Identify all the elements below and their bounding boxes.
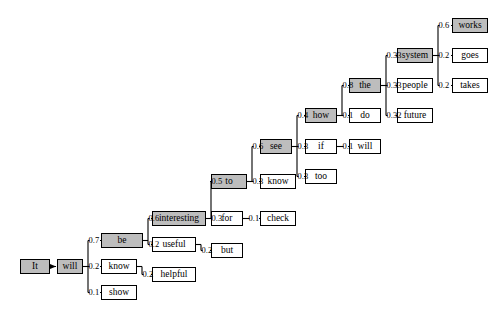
node-know1[interactable]: know — [101, 259, 137, 274]
lattice-diagram: Itwillbeknowshowinterestingusefulhelpful… — [0, 0, 499, 316]
node-label: people — [402, 79, 427, 92]
edge-weight-useful-but: 0.2 — [202, 246, 213, 255]
node-label: see — [270, 140, 282, 153]
node-helpful[interactable]: helpful — [152, 267, 196, 282]
edge-weight-will1-show: 0.1 — [89, 288, 100, 297]
edge-weight-see-if: 0.3 — [298, 142, 309, 151]
node-label: interesting — [159, 212, 199, 225]
node-interesting[interactable]: interesting — [152, 211, 206, 226]
node-how[interactable]: how — [305, 108, 337, 123]
node-label: will — [63, 260, 78, 273]
node-people[interactable]: people — [397, 78, 433, 93]
node-label: the — [359, 79, 371, 92]
node-label: know — [108, 260, 129, 273]
node-label: takes — [460, 79, 480, 92]
node-know2[interactable]: know — [260, 174, 296, 189]
node-label: do — [360, 109, 370, 122]
node-future[interactable]: future — [397, 108, 433, 123]
node-be[interactable]: be — [101, 233, 143, 248]
edge-weight-how-do: 0.1 — [343, 111, 354, 120]
node-label: check — [267, 212, 289, 225]
edge-weight-will1-be: 0.7 — [89, 236, 100, 245]
node-will2[interactable]: will — [349, 139, 381, 154]
edge-weight-see-how: 0.4 — [298, 111, 309, 120]
edge-weight-for-check: 0.1 — [249, 214, 260, 223]
edge-weight-will1-know1: 0.2 — [89, 262, 100, 271]
edge-weight-the-people: 0.33 — [387, 81, 402, 90]
node-label: too — [315, 170, 327, 183]
node-works[interactable]: works — [452, 18, 488, 33]
node-label: works — [458, 19, 481, 32]
node-label: to — [225, 175, 232, 188]
edge-weight-to-know2: 0.3 — [253, 177, 264, 186]
node-label: know — [267, 175, 288, 188]
edge-weight-if-will2: 0.1 — [343, 142, 354, 151]
node-system[interactable]: system — [397, 48, 433, 63]
node-label: how — [313, 109, 329, 122]
node-takes[interactable]: takes — [452, 78, 488, 93]
edges — [50, 26, 452, 293]
edge-weight-how-the: 0.8 — [343, 81, 354, 90]
node-but[interactable]: but — [211, 243, 243, 258]
node-check[interactable]: check — [260, 211, 296, 226]
node-label: useful — [162, 238, 185, 251]
edge-weight-the-future: 0.32 — [387, 111, 402, 120]
node-if[interactable]: if — [305, 139, 337, 154]
edge-weight-interesting-to: 0.5 — [212, 177, 223, 186]
node-show[interactable]: show — [101, 285, 137, 300]
node-label: future — [404, 109, 427, 122]
node-label: but — [221, 244, 233, 257]
edge-weight-system-works: 0.6 — [439, 21, 450, 30]
edge-weight-be-useful: 0.2 — [149, 240, 160, 249]
node-too[interactable]: too — [305, 169, 337, 184]
node-it[interactable]: It — [20, 259, 50, 274]
node-label: show — [109, 286, 129, 299]
node-label: helpful — [161, 268, 188, 281]
node-goes[interactable]: goes — [452, 48, 488, 63]
node-do[interactable]: do — [349, 108, 381, 123]
node-label: be — [118, 234, 127, 247]
edge-weight-be-interesting: 0.6 — [149, 214, 160, 223]
node-label: system — [402, 49, 428, 62]
node-label: will — [358, 140, 373, 153]
node-label: It — [32, 260, 38, 273]
edge-weight-the-system: 0.33 — [387, 51, 402, 60]
node-label: goes — [461, 49, 478, 62]
edge-weight-system-goes: 0.2 — [439, 51, 450, 60]
edge-weight-interesting-for: 0.3 — [212, 214, 223, 223]
node-the[interactable]: the — [349, 78, 381, 93]
node-will1[interactable]: will — [57, 259, 83, 274]
edge-weight-to-see: 0.6 — [253, 142, 264, 151]
node-see[interactable]: see — [260, 139, 292, 154]
edge-weight-system-takes: 0.2 — [439, 81, 450, 90]
edge-weight-know1-helpful: 0.2 — [143, 270, 154, 279]
node-label: for — [221, 212, 232, 225]
edge-weight-see-too: 0.3 — [298, 172, 309, 181]
node-label: if — [318, 140, 324, 153]
